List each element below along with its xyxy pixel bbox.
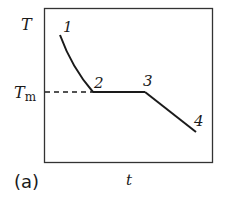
point-label-3: 3 [143, 72, 153, 90]
cooling-curve-diagram: T Tm t (a) 1 2 3 4 [0, 0, 227, 200]
point-label-4: 4 [193, 112, 204, 130]
point-label-2: 2 [93, 74, 104, 92]
segment-3-4 [145, 92, 196, 132]
tm-label-subscript: m [25, 90, 37, 104]
x-axis-label: t [126, 171, 133, 189]
segment-1-2 [60, 35, 93, 92]
panel-label: (a) [14, 171, 39, 192]
tm-label: Tm [14, 83, 37, 104]
point-label-1: 1 [63, 18, 73, 36]
y-axis-label: T [21, 15, 33, 34]
